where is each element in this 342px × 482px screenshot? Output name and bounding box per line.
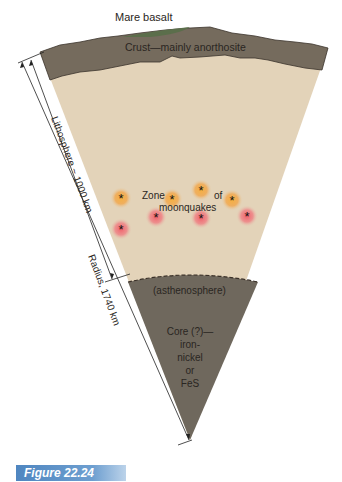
moon-interior-diagram: * * * * * * * * Mare basalt Crust—mainly… xyxy=(0,0,342,482)
svg-text:iron-: iron- xyxy=(180,339,200,350)
svg-text:or: or xyxy=(186,365,196,376)
zone-label-3: moonquakes xyxy=(159,202,216,213)
zone-label-2: of xyxy=(214,190,223,201)
svg-text:*: * xyxy=(118,191,123,206)
svg-text:*: * xyxy=(198,211,203,226)
figure-caption-text: Figure 22.24 xyxy=(24,466,94,480)
figure-caption: Figure 22.24 xyxy=(16,465,126,481)
svg-text:*: * xyxy=(153,210,158,225)
svg-text:Core (?)—: Core (?)— xyxy=(167,326,214,337)
mare-basalt-label: Mare basalt xyxy=(115,11,172,23)
svg-text:*: * xyxy=(198,183,203,198)
asthenosphere-label: (asthenosphere) xyxy=(153,285,226,296)
svg-text:nickel: nickel xyxy=(177,352,203,363)
svg-text:*: * xyxy=(229,193,234,208)
svg-text:FeS: FeS xyxy=(181,378,200,389)
svg-text:*: * xyxy=(244,209,249,224)
radius-label: Radius, 1740 km xyxy=(86,253,123,327)
zone-label-1: Zone xyxy=(142,190,165,201)
crust-label: Crust—mainly anorthosite xyxy=(125,41,246,53)
svg-text:*: * xyxy=(118,222,123,237)
